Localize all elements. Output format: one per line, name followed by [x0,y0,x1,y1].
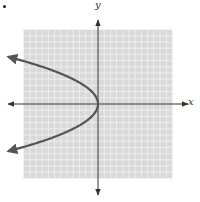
x-axis-label: x [188,96,194,107]
y-axis-label: y [95,0,101,10]
parabola-graph [0,0,200,202]
